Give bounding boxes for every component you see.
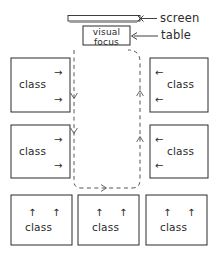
screen-bar xyxy=(68,16,140,23)
flow-arrow-up-icon: ↑ xyxy=(163,208,171,218)
table-box-text-line2: focus xyxy=(86,38,127,48)
class-label-bottom-1: class xyxy=(25,222,52,233)
flow-arrow-left-icon: ← xyxy=(155,68,163,78)
flow-arrow-right-icon: → xyxy=(54,135,62,145)
flow-arrow-right-icon: → xyxy=(54,161,62,171)
table-legend-label: table xyxy=(161,29,191,41)
flow-arrow-up-icon: ↑ xyxy=(52,208,60,218)
flow-arrow-up-icon: ↑ xyxy=(187,208,195,218)
path-direction-arrowheads xyxy=(71,91,144,192)
class-label-bottom-2: class xyxy=(92,222,119,233)
diagram-canvas: screen table visual focus class → → clas… xyxy=(0,0,214,253)
flow-arrow-left-icon: ← xyxy=(155,135,163,145)
flow-arrow-left-icon: ← xyxy=(155,161,163,171)
flow-arrow-left-icon: ← xyxy=(155,95,163,105)
flow-arrow-right-icon: → xyxy=(54,68,62,78)
class-label-left-2: class xyxy=(19,146,46,157)
screen-legend-label: screen xyxy=(160,12,199,24)
table-box-text: visual focus xyxy=(86,28,127,47)
class-label-left-1: class xyxy=(19,79,46,90)
table-leader-line xyxy=(132,33,159,40)
flow-arrow-up-icon: ↑ xyxy=(28,208,36,218)
class-label-bottom-3: class xyxy=(160,222,187,233)
flow-arrow-up-icon: ↑ xyxy=(119,208,127,218)
flow-arrow-right-icon: → xyxy=(54,95,62,105)
circulation-path-loop xyxy=(74,50,140,188)
class-label-right-2: class xyxy=(167,146,194,157)
class-label-right-1: class xyxy=(167,79,194,90)
flow-arrow-up-icon: ↑ xyxy=(95,208,103,218)
class-boxes-bottom xyxy=(11,195,207,245)
